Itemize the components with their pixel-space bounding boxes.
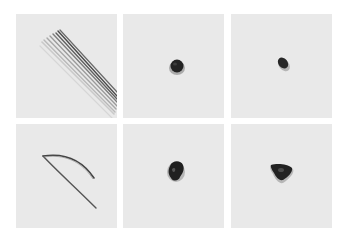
panel-strips-bundle xyxy=(16,14,117,118)
panel-triangular-clump xyxy=(231,124,332,228)
oval-blob-image xyxy=(231,14,332,118)
bent-strip-image xyxy=(16,124,117,228)
panel-oval-blob xyxy=(231,14,332,118)
panel-irregular-clump xyxy=(123,124,224,228)
triangular-clump-image xyxy=(231,124,332,228)
round-blob-image xyxy=(123,14,224,118)
strips-bundle-image xyxy=(16,14,117,118)
irregular-clump-image xyxy=(123,124,224,228)
panel-bent-strip xyxy=(16,124,117,228)
panel-round-blob xyxy=(123,14,224,118)
